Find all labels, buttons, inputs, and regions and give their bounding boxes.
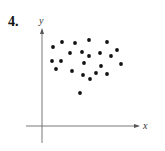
x-axis-arrow-icon [134, 124, 140, 128]
data-point [81, 73, 85, 77]
data-point [98, 51, 102, 55]
data-points [50, 38, 123, 95]
data-point [78, 91, 82, 95]
data-point [99, 64, 103, 68]
data-point [87, 54, 91, 58]
data-point [73, 41, 77, 45]
data-point [70, 69, 74, 73]
data-point [88, 77, 92, 81]
data-point [115, 48, 119, 52]
y-axis-arrow-icon [40, 28, 44, 34]
x-axis-label: x [142, 120, 148, 131]
data-point [94, 71, 98, 75]
data-point [87, 38, 91, 42]
data-point [59, 59, 63, 63]
data-point [80, 50, 84, 54]
data-point [60, 40, 64, 44]
y-axis-label: y [38, 15, 44, 26]
data-point [105, 40, 109, 44]
data-point [119, 62, 123, 66]
data-point [50, 59, 54, 63]
scatter-plot: x y [0, 0, 165, 151]
data-point [54, 67, 58, 71]
data-point [68, 51, 72, 55]
data-point [109, 54, 113, 58]
data-point [82, 61, 86, 65]
data-point [105, 72, 109, 76]
data-point [51, 45, 55, 49]
